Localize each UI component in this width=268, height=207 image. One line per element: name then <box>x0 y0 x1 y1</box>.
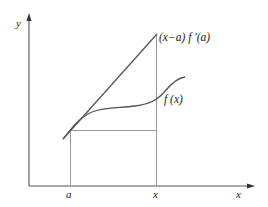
y-axis-label: y <box>15 17 21 29</box>
function-curve <box>63 77 185 139</box>
y-axis-arrow-icon <box>27 13 32 21</box>
tick-label-x: x <box>152 188 158 200</box>
function-label: f (x) <box>164 93 183 106</box>
x-axis-arrow-icon <box>247 184 255 189</box>
diagram-svg: y x a x (x−a) f ′(a) f (x) <box>0 0 268 207</box>
x-axis-label: x <box>235 188 241 200</box>
tick-label-a: a <box>66 188 72 200</box>
diagram-canvas: y x a x (x−a) f ′(a) f (x) <box>0 0 268 207</box>
tangent-label: (x−a) f ′(a) <box>159 31 210 44</box>
